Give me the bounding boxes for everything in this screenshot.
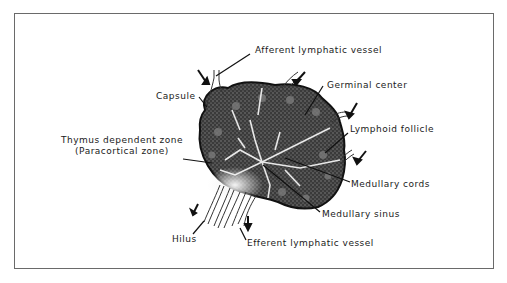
label-capsule: Capsule [156, 91, 195, 102]
label-medullary-cords: Medullary cords [351, 179, 430, 190]
label-medullary-sinus: Medullary sinus [322, 209, 400, 220]
label-thymus-dependent-zone: Thymus dependent zone (Paracortical zone… [58, 135, 186, 157]
label-germinal-center: Germinal center [327, 80, 407, 91]
label-thymus-line2: (Paracortical zone) [58, 146, 186, 157]
label-thymus-line1: Thymus dependent zone [58, 135, 186, 146]
leader-efferent [240, 228, 246, 240]
leader-afferent [216, 54, 250, 76]
label-lymphoid-follicle: Lymphoid follicle [350, 124, 434, 135]
label-hilus: Hilus [172, 234, 197, 245]
label-afferent-lymphatic-vessel: Afferent lymphatic vessel [255, 45, 382, 56]
label-efferent-lymphatic-vessel: Efferent lymphatic vessel [247, 238, 374, 249]
leader-hilus [193, 221, 204, 234]
